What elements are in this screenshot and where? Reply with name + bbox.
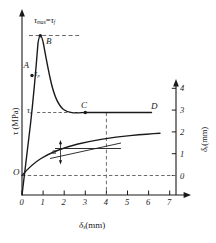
xtick-label-5: 5	[125, 198, 129, 207]
xtick-label-2: 2	[62, 198, 66, 207]
label-tau-r: τr	[27, 107, 32, 116]
xtick-label-1: 1	[41, 198, 45, 207]
series-dilation-curve	[22, 133, 160, 175]
xtick-label-0: 0	[19, 198, 23, 207]
tau-r-subscript: r	[30, 110, 32, 115]
bottom-axis-unit: (mm)	[85, 220, 105, 230]
angle-alpha-construction	[50, 140, 121, 165]
marker-peak-B	[39, 34, 42, 37]
right-axis-subscript: v	[203, 146, 209, 148]
label-point-A: A	[24, 61, 30, 70]
marker-C	[84, 111, 87, 114]
label-tau-max-equals-tau-f: τmax=τf	[34, 16, 55, 26]
right-axis-unit: (mm)	[199, 127, 209, 146]
label-point-C: C	[81, 101, 87, 110]
xtick-label-6: 6	[146, 198, 150, 207]
left-axis-title: τ (MPa)	[11, 108, 20, 135]
label-angle-alpha: α	[52, 147, 56, 156]
xtick-label-4: 4	[104, 198, 108, 207]
ytick-right-label-4: 4	[180, 84, 184, 93]
xtick-label-3: 3	[83, 198, 87, 207]
figure-shear-stress-dilation-curve: τmax=τf B A C D O τp τr α 0 1 2 3 4 5 6 …	[0, 0, 216, 243]
right-axis-symbol: δ	[199, 148, 209, 152]
series-shear-stress-curve	[22, 36, 152, 195]
ytick-right-label-2: 2	[180, 128, 184, 137]
ytick-right-label-1: 1	[180, 150, 184, 159]
xtick-label-7: 7	[167, 198, 171, 207]
tau-f-subscript: f	[54, 19, 55, 25]
label-point-D: D	[151, 102, 158, 111]
chart-canvas	[0, 0, 216, 243]
marker-tau-p	[30, 74, 33, 77]
x-axis-ticks	[22, 191, 170, 196]
tau-max-subscript: max	[37, 19, 46, 25]
right-axis-title: δv(mm)	[200, 127, 210, 152]
label-point-B: B	[46, 37, 52, 46]
right-delta-v-axis	[173, 79, 179, 195]
label-tau-p: τp	[35, 70, 40, 79]
bottom-axis-title: δs(mm)	[79, 221, 105, 231]
ytick-right-label-3: 3	[180, 106, 184, 115]
right-axis-ticks	[172, 88, 176, 175]
label-point-O: O	[13, 168, 20, 177]
ytick-right-label-0: 0	[180, 172, 184, 181]
tau-p-subscript: p	[37, 73, 39, 78]
